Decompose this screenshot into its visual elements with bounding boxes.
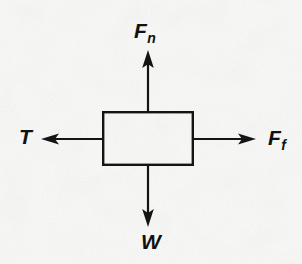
friction-force-subscript: f: [281, 137, 286, 153]
normal-force-label: Fn: [134, 20, 155, 41]
weight-force-symbol: W: [141, 230, 161, 253]
normal-force-symbol: F: [134, 19, 147, 42]
normal-force-subscript: n: [147, 30, 156, 46]
friction-force-arrow: [193, 133, 256, 144]
tension-force-label: T: [19, 126, 32, 147]
friction-force-label: Ff: [268, 127, 286, 148]
tension-force-symbol: T: [19, 125, 32, 148]
friction-force-symbol: F: [268, 126, 281, 149]
tension-force-arrow: [41, 133, 103, 144]
weight-force-label: W: [141, 231, 161, 252]
normal-force-arrow: [142, 50, 154, 112]
force-diagram-canvas: Fn Ff T W: [0, 0, 302, 264]
weight-force-arrow: [142, 165, 154, 227]
body-block-rectangle: [103, 112, 193, 165]
